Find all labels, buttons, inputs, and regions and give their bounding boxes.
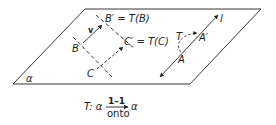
c-prime-label: C′ = T(C)	[124, 36, 169, 47]
a-prime-label: A′	[198, 32, 209, 43]
caption: T: α 1–1 onto α	[84, 96, 138, 119]
c-label: C	[87, 68, 94, 79]
b-prime-label: B′ = T(B)	[105, 13, 150, 24]
caption-over: 1–1	[108, 96, 125, 106]
caption-prefix: T: α	[84, 101, 103, 112]
vector-c-to-c-prime	[97, 47, 123, 69]
vector-v-label: v	[88, 26, 94, 35]
translation-diagram: v B′ = T(B) B C′ = T(C) C l T A′ A α T: …	[0, 0, 276, 125]
caption-suffix: α	[131, 101, 138, 112]
line-l-label: l	[220, 13, 223, 24]
t-label: T	[176, 31, 183, 42]
plane-alpha-label: α	[26, 73, 33, 84]
a-label: A	[177, 54, 185, 65]
caption-under: onto	[107, 108, 130, 119]
b-label: B	[72, 43, 79, 54]
